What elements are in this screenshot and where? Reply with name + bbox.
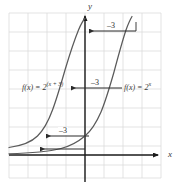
curve-label-shifted-exponent: (x + 3): [47, 81, 64, 87]
curve-label-base-exponent: x: [149, 81, 152, 87]
curve-label-base: f(x) = 2x: [124, 81, 151, 92]
y-axis-label: y: [88, 2, 92, 11]
x-axis-label: x: [168, 150, 172, 159]
graph-figure: y x f(x) = 2(x + 3) f(x) = 2x –3 –3 –3: [0, 0, 183, 190]
curve-label-shifted-base: f(x) = 2: [22, 83, 47, 92]
curve-label-shifted: f(x) = 2(x + 3): [22, 81, 63, 92]
annotation-label-middle: –3: [90, 79, 100, 87]
graph-canvas: [0, 0, 183, 190]
annotation-label-top: –3: [106, 22, 116, 30]
annotation-label-bottom: –3: [58, 127, 68, 135]
curve-label-base-base: f(x) = 2: [124, 83, 149, 92]
